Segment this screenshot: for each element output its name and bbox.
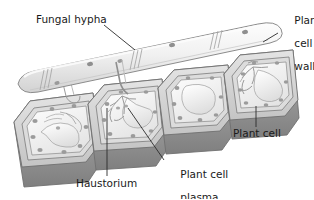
leader-fungal-hypha [104, 25, 135, 50]
plant-cell-2 [88, 79, 168, 170]
label-plasma-membrane-line2: plasma [180, 191, 218, 200]
label-plant-cell-wall-line2: cell [294, 37, 312, 49]
plant-cell-3 [158, 65, 234, 154]
label-plant-cell-wall: Plant cell wall [281, 3, 314, 84]
label-plant-cell-plasma-membrane: Plant cell plasma membrane [167, 157, 238, 199]
label-haustorium: Haustorium [76, 178, 137, 190]
label-plant-cell-wall-line3: wall [294, 60, 314, 72]
figure-haustorium-diagram: Fungal hypha Plant cell wall Plant cell … [0, 0, 314, 199]
diagram-artwork [0, 0, 314, 199]
label-plasma-membrane-line1: Plant cell [180, 168, 228, 180]
label-plant-cell-wall-line1: Plant [294, 14, 314, 26]
plant-cell-1 [14, 93, 100, 187]
label-plant-cell: Plant cell [233, 128, 281, 140]
label-fungal-hypha: Fungal hypha [36, 14, 107, 26]
